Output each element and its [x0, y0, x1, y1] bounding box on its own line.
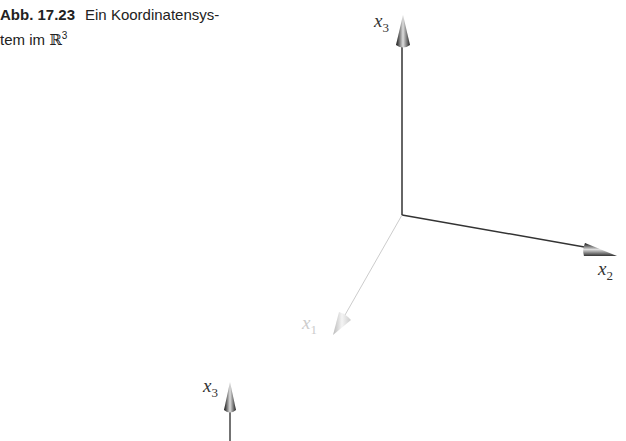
- axis-label-x3: x3: [374, 10, 389, 36]
- arrowhead-icon: [583, 243, 617, 256]
- axis-label-x2: x2: [598, 258, 613, 284]
- arrowhead-icon: [333, 312, 351, 335]
- second-figure-axis-x3: [224, 382, 236, 441]
- coordinate-system-diagram: [0, 0, 626, 441]
- axis-x2: [402, 215, 617, 256]
- arrowhead-icon: [396, 15, 410, 48]
- axis-x3: [396, 15, 410, 215]
- second-axis-label-x3: x3: [203, 375, 218, 401]
- axis-label-x1: x1: [302, 312, 317, 338]
- arrowhead-icon: [224, 382, 236, 413]
- axis-x1: [333, 215, 402, 335]
